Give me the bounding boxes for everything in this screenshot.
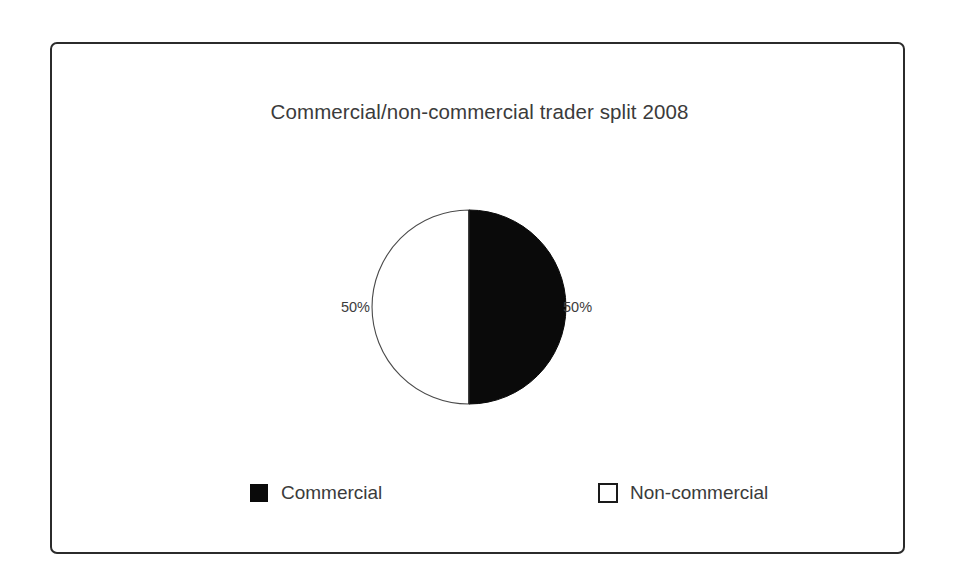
pie-slice-non-commercial [372, 210, 469, 404]
chart-title: Commercial/non-commercial trader split 2… [52, 100, 907, 124]
pie-label-non-commercial: 50% [338, 298, 370, 316]
legend-label-commercial: Commercial [281, 482, 382, 504]
legend-swatch-non-commercial-icon [598, 483, 618, 503]
pie-label-commercial: 50% [563, 298, 603, 316]
pie-slice-commercial [469, 210, 566, 404]
chart-legend: Commercial Non-commercial [52, 478, 907, 518]
legend-swatch-commercial-icon [250, 484, 268, 502]
pie-chart-svg [372, 210, 566, 404]
pie-chart [372, 210, 566, 404]
legend-item-commercial: Commercial [250, 478, 382, 508]
legend-label-non-commercial: Non-commercial [630, 482, 768, 504]
legend-item-non-commercial: Non-commercial [598, 478, 768, 508]
chart-frame: Commercial/non-commercial trader split 2… [50, 42, 905, 554]
